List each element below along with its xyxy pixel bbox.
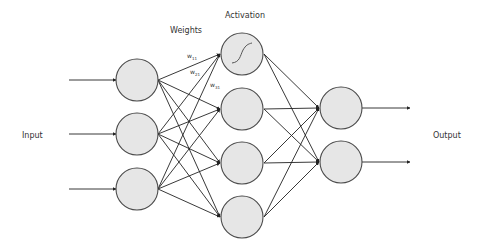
input-label: Input [22, 131, 43, 140]
neural-network-diagram: Input Output Weights Activation w11 w21 … [0, 0, 482, 250]
weight-label-w31: w31 [210, 81, 220, 90]
hidden-layer [221, 33, 263, 238]
activation-label: Activation [225, 11, 265, 20]
input-node-3 [116, 168, 158, 210]
weights-label: Weights [170, 26, 202, 35]
svg-text:w31: w31 [210, 81, 220, 90]
hidden-output-connections [264, 54, 319, 217]
output-label: Output [433, 131, 461, 140]
svg-text:w11: w11 [187, 52, 197, 61]
input-node-2 [116, 113, 158, 155]
input-arrows [69, 80, 116, 189]
input-hidden-connections [158, 54, 220, 217]
weight-label-w11: w11 [187, 52, 197, 61]
input-node-1 [116, 59, 158, 101]
hidden-node-2 [221, 88, 263, 130]
output-layer [320, 87, 362, 183]
hidden-node-4 [221, 196, 263, 238]
input-layer [116, 59, 158, 210]
weight-label-w21: w21 [190, 68, 200, 77]
output-node-2 [320, 141, 362, 183]
svg-text:w21: w21 [190, 68, 200, 77]
output-arrows [362, 108, 410, 162]
hidden-node-3 [221, 142, 263, 184]
hidden-node-1 [221, 33, 263, 75]
output-node-1 [320, 87, 362, 129]
